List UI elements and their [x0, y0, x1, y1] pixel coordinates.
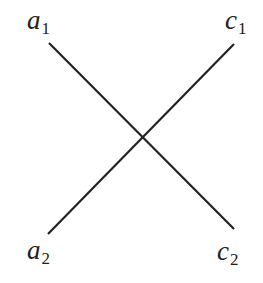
label-a1-subscript: 1 — [42, 19, 51, 38]
label-c1-base: c — [225, 5, 237, 35]
label-c1-subscript: 1 — [238, 19, 247, 38]
label-c2-subscript: 2 — [230, 250, 239, 269]
label-c2: c2 — [217, 238, 238, 265]
label-a1-base: a — [27, 5, 41, 35]
label-c2-base: c — [217, 236, 229, 266]
label-a2: a2 — [27, 237, 50, 264]
label-a2-base: a — [27, 235, 41, 265]
label-c1: c1 — [225, 7, 246, 34]
label-a2-subscript: 2 — [42, 249, 51, 268]
label-a1: a1 — [27, 7, 50, 34]
line-a2-to-c1 — [48, 44, 234, 234]
